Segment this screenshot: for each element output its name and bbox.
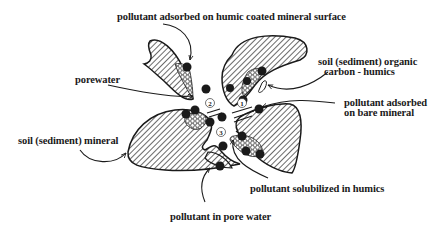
leader-pore-water-pollutant [202,168,210,202]
label-pore-water-pollutant: pollutant in pore water [170,212,271,222]
label-humic-coated: pollutant adsorbed on humic coated miner… [117,12,346,22]
humic-sliver [259,81,267,93]
svg-text:3: 3 [219,129,223,137]
label-bare-mineral-2: on bare mineral [344,108,414,118]
label-organic-carbon-2: carbon - humics [324,67,395,77]
label-solubilized: pollutant solubilized in humics [250,184,384,194]
leader-soil-mineral [80,150,126,162]
svg-text:2: 2 [208,100,212,108]
label-porewater: porewater [75,75,120,85]
svg-text:1: 1 [240,100,244,108]
leader-organic-carbon [268,72,328,89]
label-soil-mineral: soil (sediment) mineral [18,136,118,146]
